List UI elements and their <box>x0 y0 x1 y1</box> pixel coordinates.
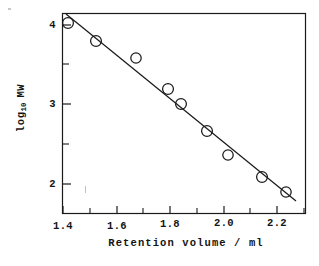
fit-line <box>66 14 296 201</box>
data-point <box>63 18 74 29</box>
y-tick-label-3: 3 <box>49 99 56 110</box>
x-tick-label-1: 1.4 <box>53 221 73 232</box>
plot-frame <box>63 14 306 214</box>
data-point-markers <box>63 18 292 198</box>
x-tick-label-4: 2.0 <box>214 218 234 229</box>
data-point <box>131 53 141 63</box>
x-tick-label-5: 2.2 <box>267 218 287 229</box>
y-axis-title-base: log <box>15 111 27 132</box>
data-point <box>281 187 291 197</box>
x-axis-major-ticks <box>63 206 277 213</box>
y-axis-title-subscript: 10 <box>20 102 28 111</box>
x-tick-label-2: 1.6 <box>107 221 127 232</box>
y-tick-label-4: 4 <box>49 20 56 31</box>
y-tick-label-2: 2 <box>49 179 56 190</box>
scan-speck <box>85 186 86 193</box>
data-point <box>223 150 233 160</box>
x-axis-title: Retention volume / ml <box>108 237 263 249</box>
x-tick-label-3: 1.8 <box>160 219 180 230</box>
y-axis-title: log10MW <box>15 84 28 132</box>
y-axis-major-ticks <box>63 25 71 184</box>
y-axis-title-quantity: MW <box>15 84 27 98</box>
scan-speck <box>8 8 11 10</box>
data-point <box>163 84 174 95</box>
chart-figure: 1.4 1.6 1.8 2.0 2.2 4 3 2 Retention volu… <box>0 0 319 266</box>
x-axis-minor-ticks <box>90 208 304 213</box>
